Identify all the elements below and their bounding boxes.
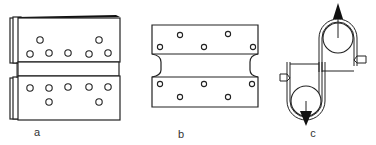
hole [65, 50, 71, 56]
panel-a-top-plate [17, 15, 120, 62]
hole [86, 84, 92, 90]
hole [86, 51, 92, 57]
hole [37, 37, 43, 43]
hole [46, 99, 52, 105]
hole [201, 81, 206, 86]
hole [249, 81, 254, 86]
hole [177, 32, 182, 37]
upper-clamp-icon [354, 56, 366, 63]
upper-arrow-icon [333, 3, 343, 19]
panel-c-label: c [310, 127, 316, 139]
hole [96, 99, 102, 105]
panel-c: c [280, 3, 366, 139]
lower-clamp-icon [280, 74, 290, 81]
hole [177, 94, 182, 99]
hole [27, 51, 33, 57]
hole [157, 44, 162, 49]
hole [46, 85, 52, 91]
hole [201, 44, 206, 49]
panel-b-plate-outline [152, 25, 258, 107]
hole [225, 31, 230, 36]
hole [105, 84, 111, 90]
hole [225, 94, 230, 99]
hole [105, 50, 111, 56]
figure-canvas: a b [0, 0, 376, 145]
hole [46, 50, 52, 56]
hole [157, 81, 162, 86]
hole [96, 37, 102, 43]
hole [27, 85, 33, 91]
panel-a-gap [18, 62, 119, 76]
panel-b-label: b [178, 128, 184, 140]
hole [250, 44, 255, 49]
panel-a: a [10, 15, 120, 138]
panel-a-label: a [34, 126, 41, 138]
panel-b: b [152, 25, 258, 140]
lower-arrow-icon [300, 111, 312, 126]
panel-a-bottom-plate [18, 76, 120, 120]
hole [65, 84, 71, 90]
